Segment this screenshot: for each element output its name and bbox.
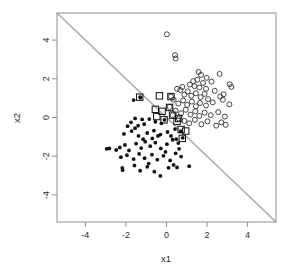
svg-text:-2: -2	[122, 230, 130, 240]
svg-text:2: 2	[41, 76, 51, 81]
chart-canvas: -4-2024 -4-2024 x1 x2	[0, 0, 294, 276]
x-axis-title: x1	[161, 253, 171, 264]
svg-text:0: 0	[164, 230, 169, 240]
svg-text:4: 4	[245, 230, 250, 240]
svg-text:4: 4	[41, 38, 51, 43]
svg-text:-2: -2	[41, 152, 51, 160]
svg-text:0: 0	[41, 115, 51, 120]
svg-text:-4: -4	[41, 191, 51, 199]
svg-text:-4: -4	[81, 230, 89, 240]
y-axis-title: x2	[11, 113, 22, 123]
scatter-plot-figure: -4-2024 -4-2024 x1 x2	[0, 0, 294, 276]
svg-text:2: 2	[205, 230, 210, 240]
